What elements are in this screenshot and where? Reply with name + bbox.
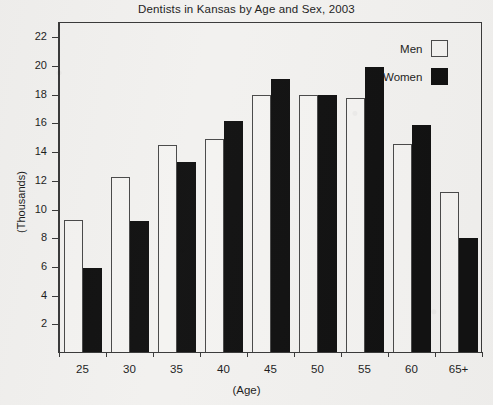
x-axis-tick-label: 45 <box>246 363 296 375</box>
y-axis-tick-label: 20 <box>7 60 47 71</box>
x-axis-line <box>59 352 482 353</box>
bar-women-65plus <box>459 238 478 353</box>
y-axis-tick <box>52 95 60 96</box>
bar-group <box>153 23 200 353</box>
bar-men-50 <box>299 95 318 353</box>
x-axis-tick-label: 35 <box>152 363 202 375</box>
bar-men-45 <box>252 95 271 353</box>
x-axis-tick-label: 40 <box>199 363 249 375</box>
x-axis-tick <box>59 352 60 357</box>
bar-women-35 <box>177 162 196 353</box>
y-axis-tick-label: 16 <box>7 117 47 128</box>
bar-group <box>294 23 341 353</box>
y-axis-tick <box>52 66 60 67</box>
x-axis-tick <box>106 352 107 357</box>
x-axis-title: (Age) <box>0 384 493 396</box>
y-axis-tick <box>52 123 60 124</box>
y-axis-tick-label: 4 <box>7 290 47 301</box>
y-axis-tick <box>52 152 60 153</box>
legend-swatch-men-icon <box>431 40 448 57</box>
bar-group <box>200 23 247 353</box>
bar-women-60 <box>412 125 431 353</box>
x-axis-tick-label: 25 <box>58 363 108 375</box>
chart-title: Dentists in Kansas by Age and Sex, 2003 <box>0 3 493 15</box>
bar-men-40 <box>205 139 224 353</box>
bar-men-55 <box>346 98 365 353</box>
x-axis-tick-label: 50 <box>293 363 343 375</box>
y-axis-tick-label: 14 <box>7 146 47 157</box>
bar-group <box>341 23 388 353</box>
bar-group <box>59 23 106 353</box>
x-axis-tick-label: 65+ <box>434 363 484 375</box>
bar-women-50 <box>318 95 337 353</box>
y-axis-line <box>59 23 60 353</box>
bar-women-55 <box>365 67 384 353</box>
legend-label-men: Men <box>400 43 422 55</box>
x-axis-tick <box>482 352 483 357</box>
y-axis-tick <box>52 37 60 38</box>
y-axis-tick <box>52 296 60 297</box>
bar-women-45 <box>271 79 290 353</box>
bar-group <box>247 23 294 353</box>
y-axis-tick <box>52 324 60 325</box>
x-axis-tick <box>435 352 436 357</box>
x-axis-tick <box>200 352 201 357</box>
bar-group <box>106 23 153 353</box>
bar-women-40 <box>224 121 243 353</box>
legend-label-women: Women <box>383 71 422 83</box>
bar-men-30 <box>111 177 130 353</box>
legend-item-men: Men <box>383 38 448 59</box>
bar-women-30 <box>130 221 149 353</box>
y-axis-tick-label: 6 <box>7 261 47 272</box>
y-axis-tick-label: 12 <box>7 175 47 186</box>
y-axis-tick <box>52 267 60 268</box>
legend-item-women: Women <box>383 66 448 87</box>
bar-women-25 <box>83 268 102 353</box>
y-axis-tick-label: 8 <box>7 232 47 243</box>
y-axis-tick-label: 18 <box>7 89 47 100</box>
bar-men-60 <box>393 144 412 353</box>
x-axis-tick <box>153 352 154 357</box>
x-axis-tick <box>341 352 342 357</box>
x-axis-tick <box>388 352 389 357</box>
legend-swatch-women-icon <box>431 68 448 85</box>
bar-men-25 <box>64 220 83 353</box>
y-axis-tick-label: 2 <box>7 318 47 329</box>
y-axis-tick <box>52 238 60 239</box>
x-axis-tick <box>247 352 248 357</box>
y-axis-tick <box>52 210 60 211</box>
bar-men-35 <box>158 145 177 353</box>
x-axis-tick-label: 60 <box>387 363 437 375</box>
x-axis-tick-label: 30 <box>105 363 155 375</box>
x-axis-tick-label: 55 <box>340 363 390 375</box>
y-axis-tick-label: 10 <box>7 204 47 215</box>
x-axis-tick <box>294 352 295 357</box>
y-axis-tick <box>52 181 60 182</box>
y-axis-tick-label: 22 <box>7 31 47 42</box>
bar-men-65plus <box>440 192 459 353</box>
chart-legend: Men Women <box>383 38 448 94</box>
